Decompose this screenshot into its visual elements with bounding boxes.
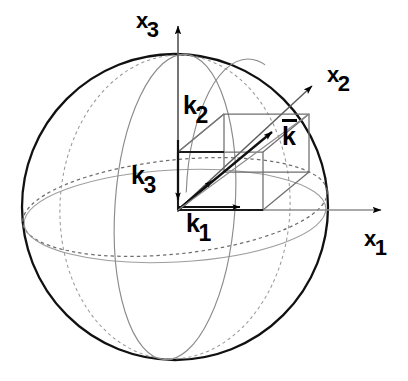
- axis-label-x3-base: x: [136, 8, 148, 33]
- axis-label-x1-base: x: [364, 226, 376, 251]
- sphere-outline: [22, 54, 328, 360]
- vector-overbar-wrap: k: [282, 124, 295, 149]
- component-label-k2: k2: [183, 93, 209, 118]
- box-edge-depth-br: [263, 172, 309, 210]
- component-label-k1: k1: [186, 211, 212, 236]
- axis-label-x3: x3: [136, 10, 160, 32]
- equator-ellipse-solid: [22, 162, 328, 270]
- sphere-group: [18, 49, 332, 365]
- equator-ellipse: [18, 144, 332, 269]
- figure-root: x3 x2 x1 k2 k3 k1 k: [0, 0, 408, 381]
- component-label-k3: k3: [131, 163, 157, 188]
- component-label-k3-sub: 3: [143, 172, 156, 198]
- meridian-ellipse-back: [52, 49, 298, 365]
- component-label-k2-sub: 2: [195, 102, 208, 128]
- component-label-k1-sub: 1: [198, 220, 211, 246]
- axis-label-x1: x1: [364, 228, 388, 250]
- axis-label-x2: x2: [327, 64, 351, 86]
- vector-label-k: k: [282, 124, 295, 149]
- vector-label-k-base: k: [282, 122, 295, 150]
- axis-label-x2-sub: 2: [338, 71, 350, 96]
- vector-overbar: [282, 119, 297, 122]
- axis-label-x1-sub: 1: [375, 235, 387, 260]
- diagram-canvas: [0, 0, 408, 381]
- axis-label-x3-sub: 3: [147, 17, 159, 42]
- axis-label-x2-base: x: [327, 62, 339, 87]
